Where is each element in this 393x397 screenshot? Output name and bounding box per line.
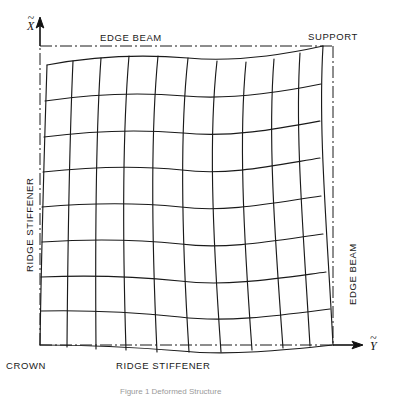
mesh-row bbox=[41, 272, 326, 283]
mesh-column bbox=[272, 59, 283, 348]
mesh-column bbox=[322, 46, 333, 345]
mesh-column bbox=[182, 58, 189, 352]
edge-beam-top-label: EDGE BEAM bbox=[100, 32, 162, 43]
mesh-row bbox=[42, 234, 323, 246]
mesh-row bbox=[47, 46, 323, 65]
mesh-row bbox=[44, 121, 320, 137]
deformed-structure-diagram: EDGE BEAM SUPPORT CROWN RIDGE STIFFENER … bbox=[0, 0, 393, 397]
crown-label: CROWN bbox=[6, 360, 46, 371]
mesh-column bbox=[153, 56, 158, 352]
support-label: SUPPORT bbox=[308, 31, 358, 42]
mesh-row bbox=[41, 309, 330, 319]
axis-arrows bbox=[36, 17, 363, 349]
mesh-column bbox=[40, 65, 47, 345]
x-axis-tilde-accent: ~ bbox=[28, 11, 35, 25]
mesh-column bbox=[212, 61, 221, 352]
y-axis-label-group: Y ~ bbox=[370, 331, 378, 353]
figure-caption: Figure 1 Deformed Structure bbox=[120, 387, 222, 396]
x-axis-label-group: X ~ bbox=[26, 11, 35, 33]
mesh-column bbox=[67, 61, 73, 347]
figure-container: EDGE BEAM SUPPORT CROWN RIDGE STIFFENER … bbox=[0, 0, 393, 397]
mesh-column bbox=[124, 56, 129, 350]
mesh-row bbox=[43, 158, 320, 172]
ridge-stiffener-bottom-label: RIDGE STIFFENER bbox=[116, 360, 211, 371]
reference-frame bbox=[40, 46, 335, 345]
mesh-row bbox=[42, 196, 321, 209]
edge-beam-right-label: EDGE BEAM bbox=[347, 243, 358, 305]
deformed-mesh bbox=[40, 46, 333, 353]
mesh-column-lines bbox=[40, 46, 333, 352]
y-axis-tilde-accent: ~ bbox=[370, 331, 377, 345]
ridge-stiffener-left-label: RIDGE STIFFENER bbox=[24, 177, 35, 272]
mesh-row bbox=[40, 345, 333, 353]
mesh-row bbox=[45, 84, 321, 101]
